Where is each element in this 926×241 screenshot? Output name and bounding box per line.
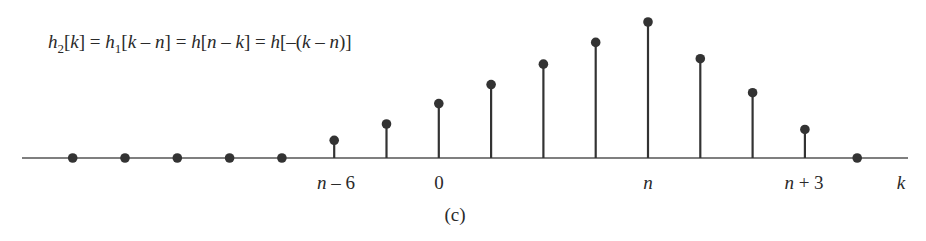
stem-marker [852,153,862,163]
stem-marker [120,153,130,163]
stem-marker [173,153,183,163]
tick-label-n-minus-6: n – 6 [317,172,355,194]
stem-marker [68,153,78,163]
tick-label-n: n [643,172,653,194]
stem-marker [486,80,496,90]
stem-marker [329,136,339,146]
stem-marker [591,38,601,48]
stem-marker [539,59,549,69]
tick-label-zero: 0 [434,172,444,194]
stem-marker [696,54,706,64]
stem-marker [382,119,392,129]
stem-marker [434,99,444,109]
stem-marker [748,88,758,98]
axis-label-k: k [897,172,905,194]
figure-caption: (c) [444,204,465,226]
stem-marker [277,153,287,163]
stem-marker [800,125,810,135]
tick-label-n-plus-3: n + 3 [784,172,823,194]
stem-plot-figure: h2[k] = h1[k – n] = h[n – k] = h[–(k – n… [0,0,926,241]
stem-marker [643,17,653,27]
stem-marker [225,153,235,163]
equation: h2[k] = h1[k – n] = h[n – k] = h[–(k – n… [48,31,352,57]
